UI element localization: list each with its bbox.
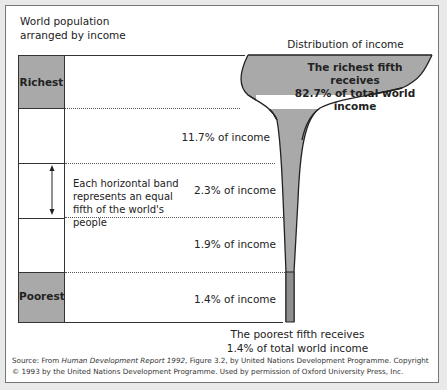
source-prefix: Source: From — [12, 356, 61, 365]
income-label-second: 11.7% of income — [150, 131, 270, 143]
richest-income-note: The richest fifth receives 82.7% of tota… — [290, 61, 420, 113]
source-citation: Source: From Human Development Report 19… — [12, 355, 437, 377]
poorest-note-line2: 1.4% of total world income — [225, 342, 370, 356]
income-label-fourth: 1.9% of income — [156, 238, 276, 250]
income-label-poorest: 1.4% of income — [156, 293, 276, 305]
poorest-note-line1: The poorest fifth receives — [225, 328, 370, 342]
richest-note-line2: 82.7% of total world — [290, 87, 420, 100]
source-title: Human Development Report 1992 — [61, 356, 185, 365]
band-explanation-note: Each horizontal band represents an equal… — [73, 177, 193, 229]
poorest-income-note: The poorest fifth receives 1.4% of total… — [225, 328, 370, 355]
richest-note-line1: The richest fifth receives — [290, 61, 420, 87]
richest-note-line3: income — [290, 100, 420, 113]
